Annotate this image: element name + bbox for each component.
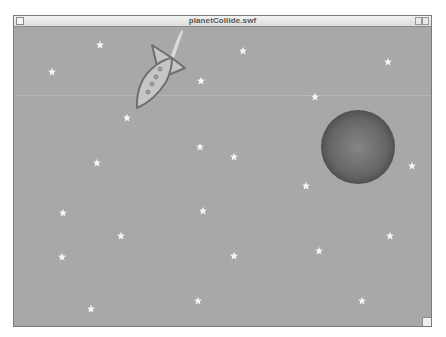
game-scene — [0, 0, 446, 337]
star-icon — [315, 247, 323, 255]
star-icon — [117, 232, 125, 240]
star-icon — [311, 93, 319, 101]
star-icon — [96, 41, 104, 49]
star-icon — [48, 68, 56, 76]
star-icon — [58, 253, 66, 261]
rocket-porthole-icon — [154, 75, 158, 79]
rocket-flame-icon — [171, 30, 183, 58]
star-icon — [230, 252, 238, 260]
star-icon — [59, 209, 67, 217]
star-icon — [87, 305, 95, 313]
planet[interactable] — [321, 110, 395, 184]
star-icon — [302, 182, 310, 190]
star-icon — [358, 297, 366, 305]
star-icon — [239, 47, 247, 55]
star-icon — [408, 162, 416, 170]
star-icon — [194, 297, 202, 305]
star-icon — [196, 143, 204, 151]
star-icon — [199, 207, 207, 215]
star-icon — [386, 232, 394, 240]
star-icon — [93, 159, 101, 167]
star-icon — [123, 114, 131, 122]
rocket-porthole-icon — [146, 90, 150, 94]
star-icon — [230, 153, 238, 161]
rocket-porthole-icon — [150, 82, 154, 86]
rocket-body-icon — [137, 58, 172, 108]
star-icon — [197, 77, 205, 85]
star-icon — [384, 58, 392, 66]
rocket-porthole-icon — [158, 67, 162, 71]
rocket[interactable] — [137, 30, 185, 108]
